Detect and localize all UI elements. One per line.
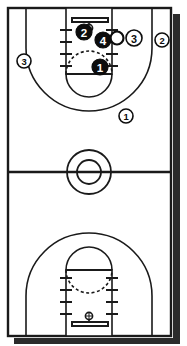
player-marker[interactable]: 2 (76, 24, 92, 40)
player-number-label: 2 (159, 35, 164, 46)
ball-marker[interactable] (111, 32, 124, 45)
court-svg: 2432311 (0, 0, 187, 346)
player-marker[interactable]: 4 (95, 32, 111, 48)
player-number-label: 3 (131, 33, 137, 45)
player-number-label: 3 (21, 56, 26, 67)
player-number-label: 1 (97, 61, 104, 74)
player-marker[interactable]: 2 (155, 33, 169, 47)
player-number-label: 2 (81, 26, 87, 39)
player-number-label: 4 (100, 34, 107, 47)
player-marker[interactable]: 3 (126, 30, 142, 46)
backboard-top (72, 18, 108, 22)
player-number-label: 1 (123, 111, 128, 122)
player-marker[interactable]: 3 (17, 54, 31, 68)
player-marker[interactable]: 1 (119, 109, 133, 123)
player-marker[interactable]: 1 (92, 59, 108, 75)
basketball-court-diagram: 2432311 (0, 0, 187, 346)
ball-icon[interactable] (111, 32, 124, 45)
backboard-bottom (72, 322, 108, 326)
